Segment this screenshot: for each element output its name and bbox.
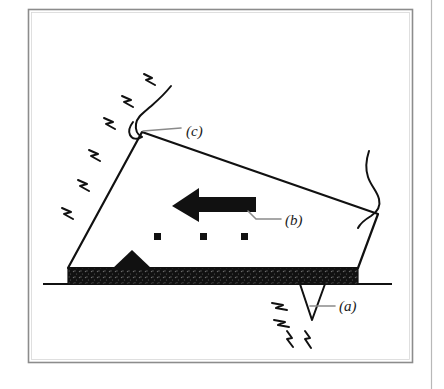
dot-marker [200,233,207,240]
label-c: (c) [186,123,203,140]
label-a: (a) [339,298,357,315]
technical-diagram: (c) (b) (a) [0,0,444,389]
dot-marker [154,233,161,240]
dot-marker [241,233,248,240]
hatched-base-bar [68,268,358,284]
label-b: (b) [285,212,303,229]
figure-page: (c) (b) (a) [0,0,444,389]
